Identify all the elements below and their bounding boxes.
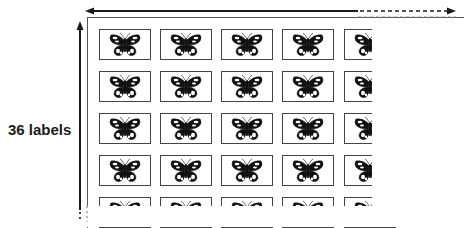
- arrowhead-left-icon: [85, 8, 94, 15]
- arrowhead-right-icon: [447, 8, 456, 15]
- arrowhead-up-icon: [77, 21, 84, 30]
